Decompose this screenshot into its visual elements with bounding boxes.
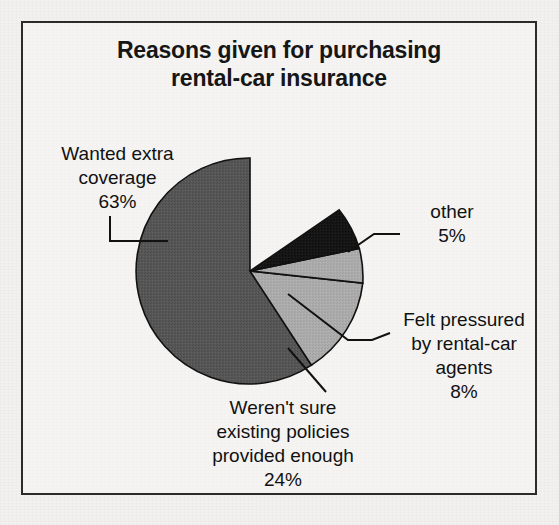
pie-label-werent-sure-line-2: existing policies <box>177 420 389 444</box>
pie-label-werent-sure-line-1: Weren't sure <box>177 396 389 420</box>
pie-label-other-line-1: other <box>404 200 500 224</box>
pie-label-wanted-extra-coverage-value: 63% <box>30 190 205 214</box>
pie-label-werent-sure: Weren't sure existing policies provided … <box>177 396 389 493</box>
pie-label-other: other 5% <box>404 200 500 248</box>
pie-label-wanted-extra-coverage: Wanted extra coverage 63% <box>30 142 205 214</box>
pie-label-felt-pressured-line-1: Felt pressured <box>392 308 536 332</box>
pie-label-felt-pressured-value: 8% <box>392 380 536 404</box>
pie-label-wanted-extra-coverage-line-2: coverage <box>30 166 205 190</box>
pie-label-werent-sure-value: 24% <box>177 468 389 492</box>
pie-label-other-value: 5% <box>404 224 500 248</box>
pie-label-felt-pressured-line-3: agents <box>392 356 536 380</box>
pie-label-wanted-extra-coverage-line-1: Wanted extra <box>30 142 205 166</box>
pie-label-felt-pressured-line-2: by rental-car <box>392 332 536 356</box>
pie-label-felt-pressured: Felt pressured by rental-car agents 8% <box>392 308 536 405</box>
pie-label-werent-sure-line-3: provided enough <box>177 444 389 468</box>
